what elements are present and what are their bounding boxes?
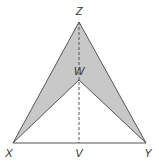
label-y: Y [144, 147, 152, 159]
label-z: Z [75, 5, 84, 17]
label-v: V [75, 147, 84, 159]
geometry-figure: Z W X V Y [0, 0, 159, 165]
label-x: X [4, 147, 13, 159]
label-w: W [74, 65, 86, 77]
